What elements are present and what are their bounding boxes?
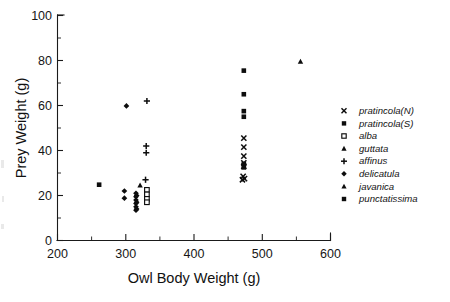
y-tick-label-80: 80: [38, 54, 52, 68]
y-axis-title: Prey Weight (g): [13, 78, 29, 178]
filled-square-icon: [342, 197, 346, 201]
legend-label: pratincola(N): [358, 105, 414, 116]
data-point: [143, 150, 149, 156]
scatter-plot-figure: 0 20 40 60 80 100 200 300 400 500 600 Ow…: [0, 0, 450, 302]
y-tick-label-100: 100: [31, 9, 52, 23]
x-tick-labels: 200 300 400 500 600: [47, 247, 341, 261]
series-pratincolan: [240, 136, 247, 183]
legend-label: guttata: [359, 143, 388, 154]
series-javanica: [298, 59, 303, 64]
y-tick-label-40: 40: [38, 144, 52, 158]
series-punctatissima: [97, 182, 102, 187]
x-tick-label-600: 600: [320, 247, 341, 261]
data-point: [142, 177, 148, 183]
legend-item-pratincolas: pratincola(S): [342, 118, 414, 129]
x-major-ticks: [58, 234, 331, 241]
series-alba: [145, 188, 150, 205]
legend-label: delicatula: [359, 168, 400, 179]
legend-label: alba: [359, 130, 377, 141]
cross-x-icon: [342, 108, 347, 113]
y-tick-labels: 0 20 40 60 80 100: [31, 9, 52, 248]
y-tick-label-20: 20: [38, 189, 52, 203]
data-point: [145, 188, 150, 193]
legend-item-alba: alba: [342, 130, 377, 141]
data-point: [122, 188, 128, 194]
data-points-layer: [97, 59, 303, 213]
x-axis-title: Owl Body Weight (g): [128, 270, 261, 286]
legend-label: affinus: [359, 155, 387, 166]
data-point: [241, 154, 246, 159]
data-point: [242, 92, 247, 97]
filled-square-icon: [342, 121, 346, 125]
y-tick-label-60: 60: [38, 99, 52, 113]
data-point: [145, 200, 150, 205]
data-point: [298, 59, 303, 64]
plot-svg: 0 20 40 60 80 100 200 300 400 500 600 Ow…: [0, 0, 450, 302]
filled-triangle-icon: [341, 184, 346, 189]
scan-artifact: [1, 160, 4, 168]
scan-artifact: [1, 224, 4, 229]
legend-label: pratincola(S): [358, 118, 413, 129]
x-tick-label-200: 200: [47, 247, 68, 261]
legend-label: javanica: [357, 181, 394, 192]
data-point: [124, 103, 130, 109]
legend-item-delicatula: delicatula: [341, 168, 399, 179]
data-point: [97, 182, 102, 187]
data-point: [137, 183, 142, 188]
data-point: [242, 114, 247, 119]
data-point: [145, 192, 150, 197]
legend-item-pratincolan: pratincola(N): [342, 105, 414, 116]
plus-icon: [341, 158, 347, 164]
series-guttata: [137, 183, 142, 188]
legend-item-affinus: affinus: [341, 155, 387, 166]
x-tick-label-500: 500: [252, 247, 273, 261]
legend-item-guttata: guttata: [341, 143, 388, 154]
x-tick-label-300: 300: [115, 247, 136, 261]
data-point: [242, 109, 247, 114]
legend: pratincola(N)pratincola(S)albaguttataaff…: [341, 105, 418, 204]
scan-artifact: [2, 196, 4, 202]
data-point: [144, 98, 150, 104]
filled-triangle-icon: [341, 146, 346, 151]
x-tick-label-400: 400: [184, 247, 205, 261]
legend-label: punctatissima: [358, 193, 418, 204]
data-point: [122, 195, 128, 201]
data-point: [241, 136, 246, 141]
open-square-icon: [342, 134, 346, 138]
data-point: [242, 165, 247, 170]
legend-item-punctatissima: punctatissima: [342, 193, 418, 204]
legend-item-javanica: javanica: [341, 181, 394, 192]
data-point: [241, 145, 246, 150]
series-delicatula: [122, 103, 140, 213]
series-affinus: [142, 98, 150, 183]
y-tick-label-0: 0: [45, 234, 52, 248]
data-point: [242, 68, 247, 73]
data-point: [143, 143, 149, 149]
filled-diamond-icon: [341, 171, 346, 176]
axis-lines: [57, 15, 331, 241]
